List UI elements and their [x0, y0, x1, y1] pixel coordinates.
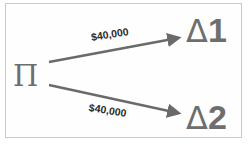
- target-index: 2: [208, 98, 227, 136]
- delta-symbol: Δ: [186, 99, 208, 137]
- edge-arrow-to-delta1: [49, 38, 178, 62]
- delta-symbol: Δ: [186, 12, 208, 50]
- source-node-pi: Π: [13, 62, 38, 91]
- target-node-delta1: Δ1: [186, 13, 227, 47]
- target-index: 1: [208, 11, 227, 49]
- diagram-canvas: Π Δ1 Δ2 $40,000 $40,000: [0, 0, 249, 147]
- target-node-delta2: Δ2: [186, 100, 227, 134]
